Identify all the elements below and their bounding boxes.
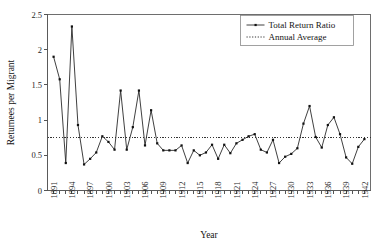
x-axis-tick-label: 1942 (360, 182, 370, 199)
x-axis-tick-label: 1921 (232, 182, 242, 199)
data-point-marker (205, 151, 207, 153)
data-point-marker (77, 124, 79, 126)
data-point-marker (327, 124, 329, 126)
x-axis-tick-label: 1894 (67, 181, 77, 199)
x-axis-tick-label: 1906 (140, 182, 150, 199)
data-point-marker (71, 25, 73, 27)
data-point-marker (284, 156, 286, 158)
data-point-marker (138, 89, 140, 91)
data-point-marker (229, 152, 231, 154)
total-return-ratio-line (54, 26, 365, 164)
data-point-marker (266, 151, 268, 153)
data-point-marker (126, 149, 128, 151)
data-point-marker (260, 149, 262, 151)
data-point-marker (199, 154, 201, 156)
y-axis-tick-label: 0 (38, 186, 42, 196)
data-point-marker (187, 162, 189, 164)
x-axis-tick-label: 1912 (177, 182, 187, 199)
legend-label-annual-average: Annual Average (269, 32, 327, 42)
data-point-marker (120, 89, 122, 91)
data-point-marker (107, 141, 109, 143)
y-axis-tick-label: 0.5 (31, 150, 42, 160)
x-axis-tick-label: 1897 (85, 182, 95, 199)
data-point-marker (351, 163, 353, 165)
y-axis-tick-label: 1 (38, 115, 42, 125)
data-point-marker (95, 151, 97, 153)
data-point-marker (321, 146, 323, 148)
chart-container: 00.511.522.51891189418971900190319061909… (0, 0, 385, 245)
x-axis-tick-label: 1918 (213, 182, 223, 199)
data-point-marker (315, 136, 317, 138)
data-point-marker (162, 149, 164, 151)
data-point-marker (308, 105, 310, 107)
data-point-marker (180, 144, 182, 146)
data-point-marker (174, 149, 176, 151)
data-point-marker (211, 144, 213, 146)
data-point-marker (333, 116, 335, 118)
line-chart: 00.511.522.51891189418971900190319061909… (0, 0, 385, 245)
data-point-marker (89, 158, 91, 160)
x-axis-tick-label: 1927 (268, 182, 278, 199)
data-point-marker (193, 149, 195, 151)
data-point-marker (290, 153, 292, 155)
data-point-marker (272, 139, 274, 141)
x-axis-tick-label: 1903 (122, 182, 132, 199)
data-point-marker (113, 149, 115, 151)
data-point-marker (241, 139, 243, 141)
data-point-marker (345, 156, 347, 158)
y-axis-title: Returnees per Migrant (6, 59, 16, 145)
x-axis-tick-label: 1915 (195, 182, 205, 199)
data-point-marker (156, 142, 158, 144)
data-point-marker (217, 158, 219, 160)
data-point-marker (223, 144, 225, 146)
data-point-marker (52, 56, 54, 58)
data-point-marker (150, 109, 152, 111)
data-point-marker (59, 78, 61, 80)
x-axis-tick-label: 1933 (305, 182, 315, 199)
data-point-marker (278, 162, 280, 164)
x-axis-tick-label: 1939 (341, 182, 351, 199)
x-axis-tick-label: 1900 (104, 182, 114, 199)
data-point-marker (144, 144, 146, 146)
x-axis-title: Year (200, 230, 218, 240)
data-point-marker (302, 123, 304, 125)
x-axis-tick-label: 1936 (323, 182, 333, 199)
y-axis-tick-label: 2.5 (31, 10, 42, 20)
data-point-marker (168, 149, 170, 151)
legend-marker-sample (255, 24, 257, 26)
data-point-marker (357, 146, 359, 148)
data-point-marker (65, 162, 67, 164)
y-axis-tick-label: 2 (38, 45, 42, 55)
x-axis-tick-label: 1924 (250, 181, 260, 199)
data-point-marker (296, 147, 298, 149)
data-point-marker (339, 133, 341, 135)
data-point-marker (248, 135, 250, 137)
data-point-marker (101, 135, 103, 137)
data-point-marker (83, 163, 85, 165)
y-axis-tick-label: 1.5 (31, 80, 42, 90)
x-axis-tick-label: 1909 (158, 182, 168, 199)
data-point-marker (363, 138, 365, 140)
x-axis-tick-label: 1891 (49, 182, 59, 199)
legend-label-total-return-ratio: Total Return Ratio (269, 20, 336, 30)
x-axis-tick-label: 1930 (286, 182, 296, 199)
data-point-marker (254, 133, 256, 135)
data-point-marker (132, 126, 134, 128)
data-point-marker (235, 142, 237, 144)
